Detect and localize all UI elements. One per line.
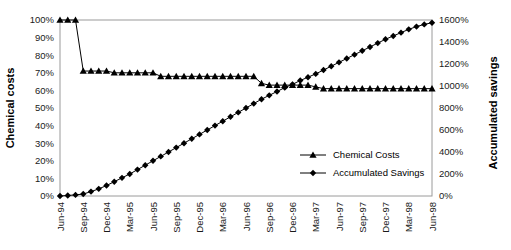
left-tick-label: 40%	[35, 120, 55, 131]
right-tick-label: 1200%	[439, 58, 469, 69]
left-tick-label: 0%	[40, 190, 54, 201]
left-tick-label: 60%	[35, 85, 55, 96]
x-tick-label: Mar-97	[310, 202, 321, 232]
x-tick-label: Mar-96	[217, 202, 228, 232]
left-tick-label: 90%	[35, 32, 55, 43]
left-tick-label: 50%	[35, 102, 55, 113]
left-tick-label: 70%	[35, 67, 55, 78]
right-tick-label: 400%	[439, 146, 464, 157]
x-tick-label: Jun-96	[241, 202, 252, 231]
x-tick-label: Sep-97	[357, 202, 368, 233]
chart-container: 0%10%20%30%40%50%60%70%80%90%100% 0%200%…	[0, 0, 511, 250]
right-tick-label: 0%	[439, 190, 453, 201]
left-tick-label: 100%	[30, 14, 55, 25]
x-tick-label: Jun-94	[55, 202, 66, 231]
left-tick-label: 10%	[35, 173, 55, 184]
legend-item-label: Chemical Costs	[333, 149, 400, 160]
x-tick-label: Jun-95	[148, 202, 159, 231]
chart-canvas: 0%10%20%30%40%50%60%70%80%90%100% 0%200%…	[0, 0, 511, 250]
x-tick-label: Sep-94	[78, 202, 89, 233]
left-tick-label: 30%	[35, 138, 55, 149]
x-axis-tick-labels: Jun-94Sep-94Dec-94Mar-95Jun-95Sep-95Dec-…	[55, 202, 438, 233]
x-tick-label: Mar-95	[124, 202, 135, 232]
right-tick-label: 200%	[439, 168, 464, 179]
x-tick-label: Jun-97	[334, 202, 345, 231]
x-tick-label: Jun-98	[427, 202, 438, 231]
left-axis-title: Chemical costs	[4, 68, 16, 149]
right-tick-label: 600%	[439, 124, 464, 135]
x-tick-label: Sep-95	[171, 202, 182, 233]
x-tick-label: Dec-95	[194, 202, 205, 233]
left-axis-tick-labels: 0%10%20%30%40%50%60%70%80%90%100%	[30, 14, 55, 201]
x-tick-label: Sep-96	[264, 202, 275, 233]
x-tick-label: Dec-97	[380, 202, 391, 233]
right-tick-label: 800%	[439, 102, 464, 113]
right-axis-title: Accumulated savings	[487, 56, 499, 169]
right-axis-tick-labels: 0%200%400%600%800%1000%1200%1400%1600%	[439, 14, 469, 201]
x-tick-label: Mar-98	[403, 202, 414, 232]
left-tick-label: 20%	[35, 155, 55, 166]
right-tick-label: 1400%	[439, 36, 469, 47]
x-tick-label: Dec-94	[101, 202, 112, 233]
left-tick-label: 80%	[35, 50, 55, 61]
legend-item-label: Accumulated Savings	[333, 167, 425, 178]
x-tick-label: Dec-96	[287, 202, 298, 233]
right-tick-label: 1600%	[439, 14, 469, 25]
right-tick-label: 1000%	[439, 80, 469, 91]
